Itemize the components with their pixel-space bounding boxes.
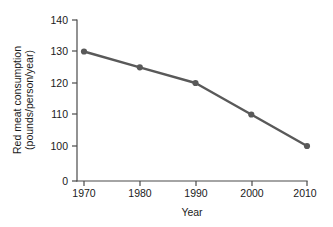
data-point-2010	[304, 143, 310, 149]
y-tick-label-130: 130	[50, 45, 68, 57]
data-point-1980	[137, 64, 143, 70]
chart-background	[0, 0, 333, 227]
y-axis-title: Red meat consumption (pounds/person/year…	[11, 46, 35, 154]
x-tick-label-2000: 2000	[240, 187, 264, 199]
data-point-2000	[248, 111, 254, 117]
x-tick-label-1980: 1980	[128, 187, 152, 199]
x-tick-label-1970: 1970	[72, 187, 96, 199]
data-point-1970	[81, 48, 87, 54]
chart-figure: 140 130 120 110 100 0 1970 1980 1990 200…	[0, 0, 333, 227]
y-tick-label-100: 100	[50, 140, 68, 152]
x-tick-label-1990: 1990	[184, 187, 208, 199]
y-axis-title-line1: Red meat consumption	[11, 46, 23, 154]
x-tick-label-2010: 2010	[293, 187, 317, 199]
line-chart: 140 130 120 110 100 0 1970 1980 1990 200…	[0, 0, 333, 227]
y-tick-label-0: 0	[62, 175, 68, 187]
y-tick-label-110: 110	[51, 108, 68, 120]
data-point-1990	[192, 80, 198, 86]
y-tick-label-140: 140	[50, 14, 68, 26]
y-tick-label-120: 120	[50, 77, 68, 89]
y-axis-title-line2: (pounds/person/year)	[23, 50, 35, 150]
x-axis-title: Year	[181, 206, 203, 218]
